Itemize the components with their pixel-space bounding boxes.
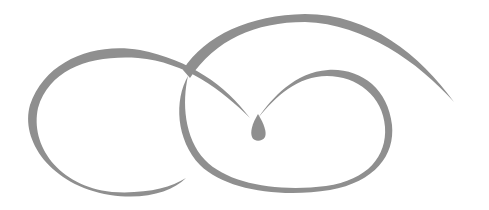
flourish-ornament	[0, 0, 489, 210]
teardrop	[251, 114, 265, 141]
swirl-graphic	[0, 0, 489, 210]
inner-loop	[179, 70, 392, 193]
top-arc	[183, 14, 454, 102]
